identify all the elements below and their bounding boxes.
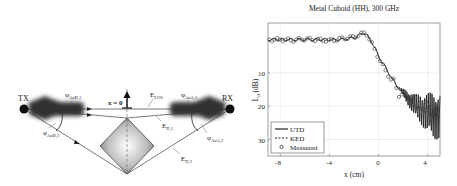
label-e-d1: ED,1 <box>156 116 173 132</box>
d1-arrowhead <box>87 113 92 117</box>
y-axis-label: Ld (dB) <box>251 78 261 101</box>
scattering-geometry-diagram: x = 0 TX RX ELOS ED,1 ED,2 φAoD,1 φAoD,2 <box>0 0 250 186</box>
path-loss-chart: Metal Cuboid (HH), 300 GHz -8 -4 0 4 10 … <box>240 0 457 186</box>
legend-ked-label: KED <box>290 135 304 143</box>
rx-antenna-beam <box>170 96 226 120</box>
svg-text:ELOS: ELOS <box>150 91 163 100</box>
y-tick-label: 10 <box>258 70 266 78</box>
tx-node <box>20 105 29 114</box>
x-tick-label: 0 <box>376 159 380 167</box>
los-arrowhead <box>87 107 92 111</box>
x-tick-label: 4 <box>423 159 427 167</box>
chart-title: Metal Cuboid (HH), 300 GHz <box>309 4 400 13</box>
y-tick-label: 30 <box>258 137 266 145</box>
legend-measured-label: Measured <box>290 144 318 152</box>
x-tick-label: -8 <box>275 159 281 167</box>
origin-label: x = 0 <box>108 99 123 107</box>
label-e-los: ELOS <box>148 91 163 107</box>
x-tick-labels: -8 -4 0 4 <box>275 159 427 167</box>
tx-label: TX <box>18 94 29 103</box>
x-axis-label: x (cm) <box>344 170 364 179</box>
label-phi-aoa2: φAoA,2 <box>201 124 223 144</box>
svg-text:ED,2: ED,2 <box>181 155 192 165</box>
legend-utd-label: UTD <box>290 126 304 134</box>
svg-text:φAoD,1: φAoD,1 <box>65 91 81 101</box>
chart-legend: UTD KED Measured <box>271 122 324 153</box>
d2-arrowhead <box>74 140 80 144</box>
label-e-d2: ED,2 <box>173 148 192 165</box>
label-phi-aod2: φAoD,2 <box>43 123 59 139</box>
diagram-canvas: x = 0 TX RX ELOS ED,1 ED,2 φAoD,1 φAoD,2 <box>0 0 250 186</box>
chart-canvas: Metal Cuboid (HH), 300 GHz -8 -4 0 4 10 … <box>240 0 457 186</box>
rx-label: RX <box>222 94 233 103</box>
origin-arrow-icon <box>122 91 132 108</box>
rx-node <box>226 105 235 114</box>
svg-text:φAoA,1: φAoA,1 <box>181 91 197 101</box>
svg-text:ED,1: ED,1 <box>162 122 173 132</box>
svg-text:φAoA,2: φAoA,2 <box>207 134 223 144</box>
x-tick-label: -4 <box>326 159 332 167</box>
y-tick-label: 20 <box>258 103 266 111</box>
